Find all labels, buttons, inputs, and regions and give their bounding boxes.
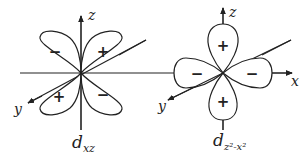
- sign-top: +: [217, 37, 230, 55]
- diagram-dxz: z y − + + − dxz: [13, 7, 146, 155]
- sign-right: −: [246, 65, 259, 83]
- sign-lower-left: +: [53, 88, 66, 106]
- z-label-right: z: [228, 4, 237, 20]
- caption-dz2-x2: dz²-x²: [213, 130, 246, 152]
- sign-upper-left: −: [49, 43, 62, 61]
- diagram-dz2-x2: z x y + + − − dz²-x²: [157, 4, 299, 152]
- sign-left: −: [191, 65, 204, 83]
- x-label-right: x: [291, 73, 299, 89]
- sign-lower-right: −: [97, 86, 110, 104]
- sign-bottom: +: [217, 93, 230, 111]
- y-label-left: y: [13, 101, 23, 117]
- y-label-right: y: [157, 98, 167, 114]
- caption-dxz: dxz: [72, 132, 95, 155]
- sign-upper-right: +: [97, 43, 110, 61]
- orbital-diagrams: z y − + + − dxz z x y + + − − dz²-x²: [0, 0, 307, 158]
- z-label-left: z: [87, 7, 96, 23]
